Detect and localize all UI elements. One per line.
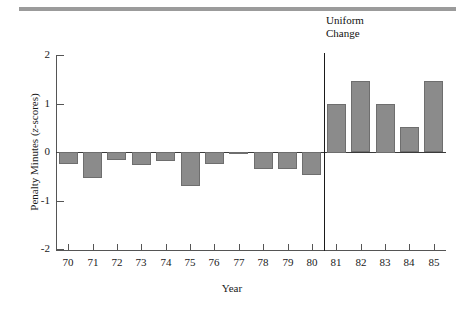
x-tick-70 <box>68 244 69 250</box>
bar-75 <box>181 152 200 186</box>
bar-74 <box>156 152 175 161</box>
bar-85 <box>424 81 443 152</box>
y-tick-2 <box>57 55 64 56</box>
x-tick-81 <box>336 244 337 250</box>
x-tick-73 <box>141 244 142 250</box>
y-axis-title-tail: -scores) <box>28 93 40 128</box>
bar-73 <box>132 152 151 165</box>
x-tick-label-81: 81 <box>324 256 348 268</box>
x-tick-75 <box>190 244 191 250</box>
x-tick-label-82: 82 <box>349 256 373 268</box>
bar-72 <box>107 152 126 160</box>
x-axis-title: Year <box>0 282 464 294</box>
bar-77 <box>229 152 248 154</box>
bar-71 <box>83 152 102 178</box>
y-axis-title-main: Penalty Minutes ( <box>28 132 40 210</box>
x-tick-label-74: 74 <box>154 256 178 268</box>
bar-70 <box>59 152 78 164</box>
x-tick-82 <box>361 244 362 250</box>
bar-84 <box>400 127 419 152</box>
x-tick-78 <box>263 244 264 250</box>
x-tick-85 <box>434 244 435 250</box>
uniform-change-annotation-label: Uniform Change <box>326 14 364 40</box>
x-tick-80 <box>312 244 313 250</box>
x-tick-72 <box>117 244 118 250</box>
x-tick-77 <box>239 244 240 250</box>
x-tick-label-80: 80 <box>300 256 324 268</box>
x-tick-label-79: 79 <box>276 256 300 268</box>
bar-80 <box>302 152 321 175</box>
x-tick-label-70: 70 <box>56 256 80 268</box>
y-tick-1 <box>57 104 64 105</box>
bar-78 <box>254 152 273 169</box>
x-tick-label-76: 76 <box>202 256 226 268</box>
bar-82 <box>351 81 370 152</box>
x-tick-79 <box>288 244 289 250</box>
bar-81 <box>327 104 346 153</box>
bar-79 <box>278 152 297 169</box>
y-axis-title-italic: z <box>28 128 40 132</box>
bar-83 <box>376 104 395 153</box>
x-tick-label-75: 75 <box>178 256 202 268</box>
x-tick-76 <box>214 244 215 250</box>
top-divider-rule <box>19 7 456 11</box>
x-axis-line <box>56 250 446 251</box>
x-tick-71 <box>93 244 94 250</box>
x-tick-84 <box>409 244 410 250</box>
y-tick--2 <box>57 249 64 250</box>
x-tick-label-85: 85 <box>422 256 446 268</box>
x-tick-label-84: 84 <box>397 256 421 268</box>
x-tick-74 <box>166 244 167 250</box>
y-axis-line <box>56 55 57 251</box>
figure-container: 210-1-2 70717273747576777879808182838485… <box>0 0 464 311</box>
x-tick-label-77: 77 <box>227 256 251 268</box>
x-tick-label-83: 83 <box>373 256 397 268</box>
uniform-change-marker-line <box>324 53 325 251</box>
x-tick-label-73: 73 <box>129 256 153 268</box>
x-tick-label-78: 78 <box>251 256 275 268</box>
y-axis-title: Penalty Minutes (z-scores) <box>28 52 40 252</box>
y-tick--1 <box>57 201 64 202</box>
bar-76 <box>205 152 224 164</box>
x-tick-label-72: 72 <box>105 256 129 268</box>
x-tick-label-71: 71 <box>81 256 105 268</box>
x-tick-83 <box>385 244 386 250</box>
